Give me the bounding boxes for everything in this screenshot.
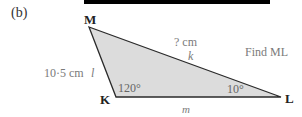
part-label: (b) xyxy=(11,5,28,21)
vertex-M: M xyxy=(84,12,96,27)
side-KL-name: m xyxy=(182,103,190,115)
side-MK-name: l xyxy=(91,66,95,80)
instruction-text: Find ML xyxy=(245,45,288,59)
triangle-figure: (b) M K L 10·5 cm l ? cm k m 120° 10° Fi… xyxy=(0,0,302,117)
side-MK-length: 10·5 cm xyxy=(44,66,84,80)
vertex-L: L xyxy=(285,91,294,106)
side-ML-length: ? cm xyxy=(174,35,198,49)
angle-K: 120° xyxy=(118,81,141,95)
side-ML-name: k xyxy=(188,49,194,63)
triangle-diagram: (b) M K L 10·5 cm l ? cm k m 120° 10° Fi… xyxy=(0,0,302,117)
angle-L: 10° xyxy=(227,82,244,96)
top-bar xyxy=(84,0,270,4)
vertex-K: K xyxy=(100,92,111,107)
